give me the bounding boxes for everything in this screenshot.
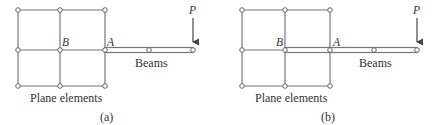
panel-a [16, 8, 196, 89]
point-label-b-a: B [62, 37, 69, 49]
caption-a: (a) [100, 111, 113, 123]
point-label-a-a: A [107, 37, 114, 49]
plane-elements-label-b: Plane elements [255, 92, 327, 104]
point-label-b-b: B [276, 37, 283, 49]
caption-b: (b) [321, 111, 335, 123]
point-label-a-b: A [333, 37, 340, 49]
beams-label-a: Beams [135, 57, 168, 69]
panel-b [240, 8, 420, 89]
load-label-b: P [413, 5, 420, 17]
plane-elements-label-a: Plane elements [30, 92, 102, 104]
beam-b [285, 48, 417, 53]
load-label-a: P [189, 5, 196, 17]
beams-label-b: Beams [359, 57, 392, 69]
